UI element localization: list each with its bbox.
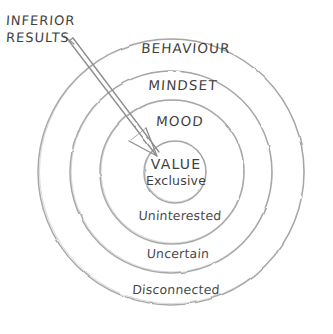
callout-line-1: INFERIOR bbox=[5, 12, 76, 29]
inferior-results-callout: INFERIOR RESULTS bbox=[6, 12, 75, 46]
core-label-exclusive: Exclusive bbox=[146, 173, 206, 188]
ring-label-disconnected-text: Disconnected bbox=[132, 282, 221, 297]
ring-label-mindset: MINDSET bbox=[148, 77, 217, 93]
ring-label-uncertain-text: Uncertain bbox=[146, 246, 210, 261]
ring-label-mindset-text: MINDSET bbox=[148, 77, 218, 93]
ring-label-mood: MOOD bbox=[156, 113, 204, 129]
arrow-shaft-a bbox=[69, 41, 156, 155]
ring-label-behaviour-text: BEHAVIOUR bbox=[141, 40, 231, 56]
ring-label-uninterested: Uninterested bbox=[138, 208, 221, 223]
ring-label-mood-text: MOOD bbox=[156, 113, 205, 129]
core-label-value: VALUE bbox=[146, 156, 206, 172]
ring-label-disconnected: Disconnected bbox=[132, 282, 219, 297]
core-label-group: VALUE Exclusive bbox=[146, 156, 206, 188]
diagram-canvas: INFERIOR RESULTS BEHAVIOUR MINDSET MOOD … bbox=[0, 0, 333, 334]
ring-label-uncertain: Uncertain bbox=[147, 246, 210, 261]
ring-label-uninterested-text: Uninterested bbox=[138, 208, 222, 223]
ring-label-behaviour: BEHAVIOUR bbox=[141, 40, 230, 56]
callout-line-2: RESULTS bbox=[5, 29, 76, 46]
